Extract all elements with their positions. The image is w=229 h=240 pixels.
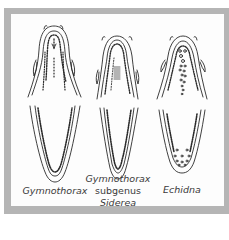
label-siderea-subgenus: Siderea <box>100 197 136 209</box>
echidna-upper-jaw <box>157 36 207 99</box>
gymnothorax-upper-jaw <box>28 25 81 97</box>
siderea-upper-jaw <box>96 36 139 99</box>
nostril-icon <box>129 36 132 40</box>
gymnothorax-lower-jaw <box>30 106 80 182</box>
label-gymnothorax: Gymnothorax <box>23 185 88 197</box>
nostril-icon <box>170 36 173 40</box>
echidna-lower-jaw <box>159 110 205 173</box>
label-echidna: Echidna <box>163 184 201 196</box>
nostril-icon <box>102 36 105 40</box>
siderea-lower-jaw <box>100 108 138 179</box>
nostril-icon <box>194 36 197 40</box>
label-siderea-rank: subgenus <box>95 185 141 197</box>
label-siderea-genus: Gymnothorax <box>86 173 151 185</box>
